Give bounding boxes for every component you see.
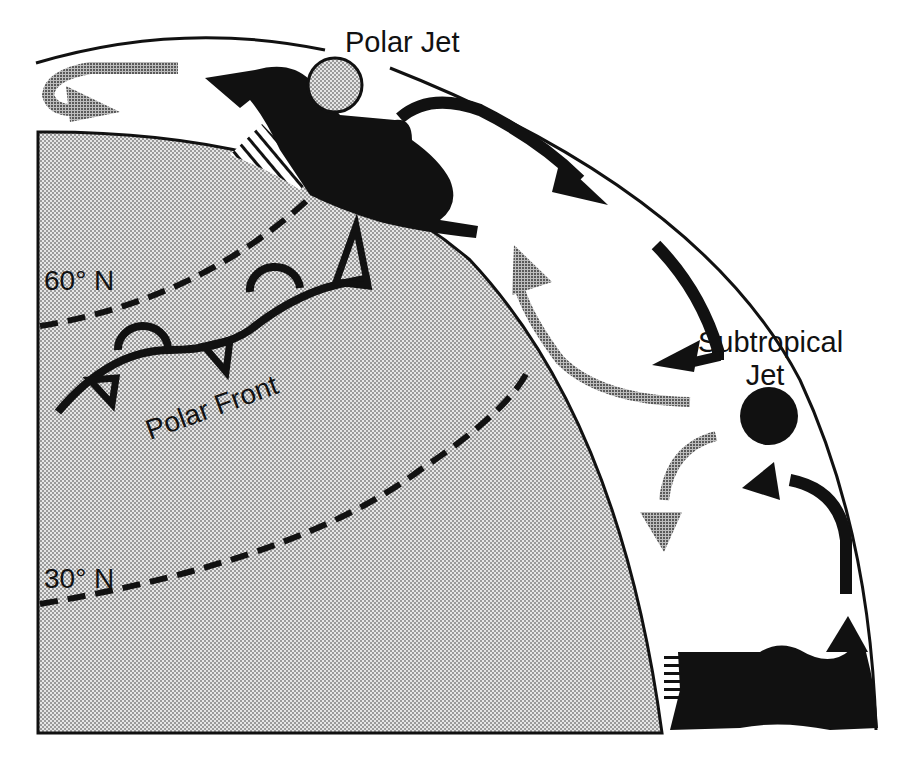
atmosphere-boundary-left xyxy=(36,38,325,63)
arrowhead-icon xyxy=(552,160,608,205)
arrowhead-icon xyxy=(742,462,780,500)
polar-jet-label: Polar Jet xyxy=(345,26,459,58)
ferrel-upper-arrowhead xyxy=(652,340,700,372)
hadley-grey-arrow xyxy=(664,436,716,500)
subtropical-jet-label-line2: Jet xyxy=(746,359,785,391)
arrowhead-icon xyxy=(640,512,682,552)
earth-quadrant xyxy=(38,132,662,733)
subtropical-jet-marker xyxy=(740,387,798,445)
latitude-60-label: 60° N xyxy=(44,265,114,296)
latitude-30-label: 30° N xyxy=(44,563,114,594)
tropical-airmass xyxy=(670,645,878,730)
general-circulation-diagram: Polar Jet Subtropical Jet 60° N 30° N Po… xyxy=(0,0,916,760)
arrowhead-icon xyxy=(66,86,120,122)
arrowhead-icon xyxy=(826,616,868,652)
subtropical-jet-label-line1: Subtropical xyxy=(698,326,843,358)
hadley-rising-arrow xyxy=(790,480,846,594)
arrowhead-icon xyxy=(512,245,552,295)
polar-jet-marker xyxy=(308,58,362,112)
